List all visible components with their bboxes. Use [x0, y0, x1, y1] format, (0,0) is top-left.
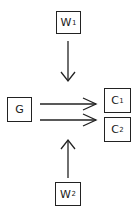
- node-w2: W2: [55, 182, 81, 206]
- node-c2-label: C: [111, 123, 119, 136]
- node-c2-subscript: 2: [119, 126, 123, 134]
- node-w1-subscript: 1: [72, 19, 76, 27]
- node-c1-label: C: [111, 94, 119, 107]
- node-g-label: G: [15, 103, 24, 116]
- node-c1-subscript: 1: [119, 97, 123, 105]
- arrow-g-to-c2: [40, 114, 96, 126]
- node-w2-subscript: 2: [71, 190, 75, 198]
- node-w2-label: W: [60, 188, 71, 201]
- node-c2: C2: [104, 117, 131, 142]
- arrow-g-to-c1: [40, 98, 96, 110]
- arrow-w1-down: [61, 41, 75, 81]
- node-w1-label: W: [61, 16, 72, 29]
- node-c1: C1: [104, 88, 131, 113]
- node-w1: W1: [56, 11, 81, 34]
- node-g: G: [7, 97, 32, 122]
- arrow-w2-up: [61, 140, 75, 178]
